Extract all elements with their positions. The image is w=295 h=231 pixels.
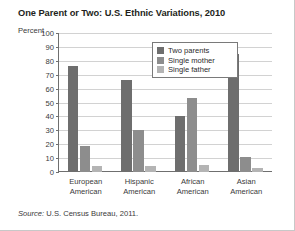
bar (92, 166, 103, 172)
bar (68, 66, 79, 172)
y-tick-label-20: 20 (46, 140, 54, 149)
bar (199, 165, 210, 172)
bar (121, 80, 132, 172)
x-axis-label-line: American (214, 187, 278, 197)
y-tick-label-80: 80 (46, 56, 54, 65)
y-tick-label-70: 70 (46, 70, 54, 79)
y-tick-label-60: 60 (46, 84, 54, 93)
bar (187, 98, 198, 172)
y-axis-unit-label: Percent (18, 26, 44, 35)
source-prefix: Source: (18, 209, 44, 218)
y-tick-label-30: 30 (46, 126, 54, 135)
legend-label: Two parents (168, 46, 209, 55)
chart-legend: Two parentsSingle motherSingle father (152, 42, 238, 78)
y-tick-label-100: 100 (41, 29, 54, 38)
y-tick-label-50: 50 (46, 98, 54, 107)
chart-title: One Parent or Two: U.S. Ethnic Variation… (18, 8, 225, 18)
y-tick-label-90: 90 (46, 42, 54, 51)
legend-swatch-icon (157, 66, 164, 73)
legend-swatch-icon (157, 47, 164, 54)
y-tick-label-0: 0 (50, 168, 54, 177)
bar (175, 116, 186, 172)
legend-item: Single mother (157, 55, 232, 64)
legend-item: Single father (157, 65, 232, 74)
legend-item: Two parents (157, 46, 232, 55)
bar (80, 146, 91, 172)
legend-label: Single mother (168, 56, 215, 65)
x-axis-label-line: Asian (214, 177, 278, 187)
chart-figure: One Parent or Two: U.S. Ethnic Variation… (0, 0, 295, 231)
y-tick-label-40: 40 (46, 112, 54, 121)
bar (252, 168, 263, 172)
bar (240, 157, 251, 172)
x-axis-label: AsianAmerican (214, 177, 278, 196)
legend-label: Single father (168, 65, 211, 74)
bar (145, 166, 156, 172)
bar-group: EuropeanAmerican (59, 33, 113, 172)
bar (133, 130, 144, 172)
y-tick-mark-0 (56, 172, 59, 173)
y-axis-title: Percent (18, 26, 44, 35)
source-note: Source: U.S. Census Bureau, 2011. (18, 209, 138, 218)
legend-swatch-icon (157, 57, 164, 64)
source-body: U.S. Census Bureau, 2011. (44, 209, 138, 218)
y-tick-label-10: 10 (46, 154, 54, 163)
